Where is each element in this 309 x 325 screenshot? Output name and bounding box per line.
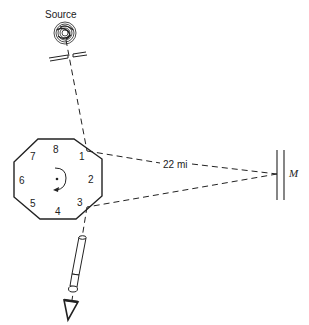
face-label-4: 4 xyxy=(55,206,61,217)
eye-icon xyxy=(64,300,78,320)
face-label-8: 8 xyxy=(53,144,59,155)
distant-mirror: M xyxy=(277,150,299,200)
axis-dot xyxy=(56,178,59,181)
michelson-apparatus-diagram: Source 22 mi M 8 1 7 xyxy=(0,0,309,325)
face-label-3: 3 xyxy=(77,197,83,208)
beam-face-1-to-mirror-b xyxy=(192,164,277,174)
slit xyxy=(49,52,87,61)
face-label-2: 2 xyxy=(88,174,94,185)
beam-face-1-to-mirror-a xyxy=(87,151,160,163)
distance-label: 22 mi xyxy=(163,159,187,170)
face-label-1: 1 xyxy=(79,151,85,162)
face-label-5: 5 xyxy=(30,198,36,209)
mirror-label: M xyxy=(288,167,299,179)
face-label-7: 7 xyxy=(30,151,36,162)
source: Source xyxy=(45,9,77,44)
face-label-6: 6 xyxy=(19,175,25,186)
clockwise-rotation-arrow-icon xyxy=(53,168,66,192)
telescope xyxy=(69,236,87,292)
source-label: Source xyxy=(45,9,77,20)
source-swirl-icon xyxy=(54,22,76,44)
beam-mirror-to-face-3 xyxy=(87,174,277,207)
light-paths xyxy=(66,40,277,300)
